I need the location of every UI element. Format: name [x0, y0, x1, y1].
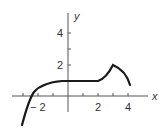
- function-graph: − 2 2 4 2 4 x y: [0, 0, 165, 133]
- y-tick-label-2: 2: [57, 59, 63, 71]
- x-tick-label-2: 2: [95, 101, 101, 113]
- x-axis-label: x: [151, 90, 158, 102]
- y-tick-label-4: 4: [57, 27, 63, 39]
- x-tick-label-neg2: − 2: [30, 101, 46, 113]
- y-axis-label: y: [73, 10, 81, 22]
- x-tick-label-4: 4: [125, 101, 131, 113]
